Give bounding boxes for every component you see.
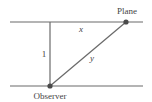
plane-label: Plane (117, 6, 137, 16)
plane-observer-diagram: Plane Observer x 1 y (0, 0, 152, 102)
plane-point (123, 19, 128, 24)
y-distance-label: y (89, 53, 94, 63)
hypotenuse-line (50, 22, 126, 86)
x-distance-label: x (78, 24, 83, 34)
altitude-label: 1 (42, 49, 47, 59)
observer-point (47, 83, 52, 88)
observer-label: Observer (34, 91, 67, 101)
